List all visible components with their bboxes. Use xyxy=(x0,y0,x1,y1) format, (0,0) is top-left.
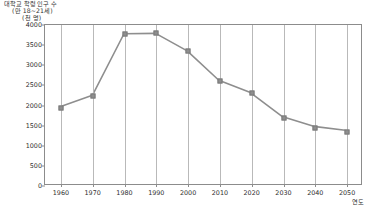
data-point-marker xyxy=(281,115,286,120)
y-axis-tick-mark xyxy=(42,45,45,46)
data-point-marker xyxy=(122,31,127,36)
x-axis-tick-label: 1990 xyxy=(148,189,164,197)
chart-title-block: 대학교 학령인구 수 (만 18~21세) (천 명) xyxy=(4,1,57,22)
grid-line-vertical xyxy=(252,25,253,184)
y-axis-tick-label: 4000 xyxy=(26,21,42,29)
grid-line-vertical xyxy=(347,25,348,184)
chart-figure: 대학교 학령인구 수 (만 18~21세) (천 명) 050010001500… xyxy=(0,0,375,223)
data-point-marker xyxy=(313,125,318,130)
series-line xyxy=(61,33,345,130)
x-axis-tick-label: 2040 xyxy=(307,189,323,197)
x-axis-tick-label: 2000 xyxy=(180,189,196,197)
y-axis-tick-mark xyxy=(42,125,45,126)
x-axis-tick-mark xyxy=(284,184,285,187)
x-axis-tick-mark xyxy=(315,184,316,187)
data-point-marker xyxy=(58,105,63,110)
data-point-marker xyxy=(186,49,191,54)
y-axis-tick-label: 1500 xyxy=(26,122,42,130)
y-axis-tick-label: 2000 xyxy=(26,102,42,110)
grid-line-vertical xyxy=(284,25,285,184)
x-axis-tick-label: 2020 xyxy=(244,189,260,197)
x-axis-title: 연도 xyxy=(352,197,364,206)
x-axis-tick-mark xyxy=(220,184,221,187)
grid-line-vertical xyxy=(315,25,316,184)
data-point-marker xyxy=(154,31,159,36)
y-axis-tick-label: 2500 xyxy=(26,81,42,89)
x-axis-tick-label: 2010 xyxy=(212,189,228,197)
x-axis-tick-label: 1980 xyxy=(116,189,132,197)
plot-area: 0500100015002000250030003500400019601970… xyxy=(44,24,362,185)
x-axis-tick-mark xyxy=(156,184,157,187)
grid-line-vertical xyxy=(125,25,126,184)
x-axis-tick-mark xyxy=(125,184,126,187)
y-axis-tick-mark xyxy=(42,85,45,86)
grid-line-vertical xyxy=(220,25,221,184)
grid-line-vertical xyxy=(156,25,157,184)
y-axis-tick-mark xyxy=(42,25,45,26)
y-axis-tick-label: 500 xyxy=(30,162,42,170)
y-axis-tick-mark xyxy=(42,165,45,166)
x-axis-tick-mark xyxy=(61,184,62,187)
data-point-marker xyxy=(345,129,350,134)
y-axis-tick-label: 3500 xyxy=(26,41,42,49)
data-point-marker xyxy=(90,94,95,99)
y-axis-tick-label: 1000 xyxy=(26,142,42,150)
y-axis-tick-mark xyxy=(42,145,45,146)
data-point-marker xyxy=(249,91,254,96)
x-axis-tick-label: 2030 xyxy=(275,189,291,197)
y-axis-tick-label: 3000 xyxy=(26,61,42,69)
x-axis-tick-label: 1960 xyxy=(53,189,69,197)
x-axis-tick-mark xyxy=(347,184,348,187)
x-axis-tick-label: 1970 xyxy=(85,189,101,197)
y-axis-tick-mark xyxy=(42,186,45,187)
x-axis-tick-mark xyxy=(188,184,189,187)
grid-line-vertical xyxy=(93,25,94,184)
x-axis-tick-label: 2050 xyxy=(339,189,355,197)
y-axis-tick-mark xyxy=(42,105,45,106)
x-axis-tick-mark xyxy=(252,184,253,187)
x-axis-tick-mark xyxy=(93,184,94,187)
y-axis-tick-mark xyxy=(42,65,45,66)
data-point-marker xyxy=(217,78,222,83)
